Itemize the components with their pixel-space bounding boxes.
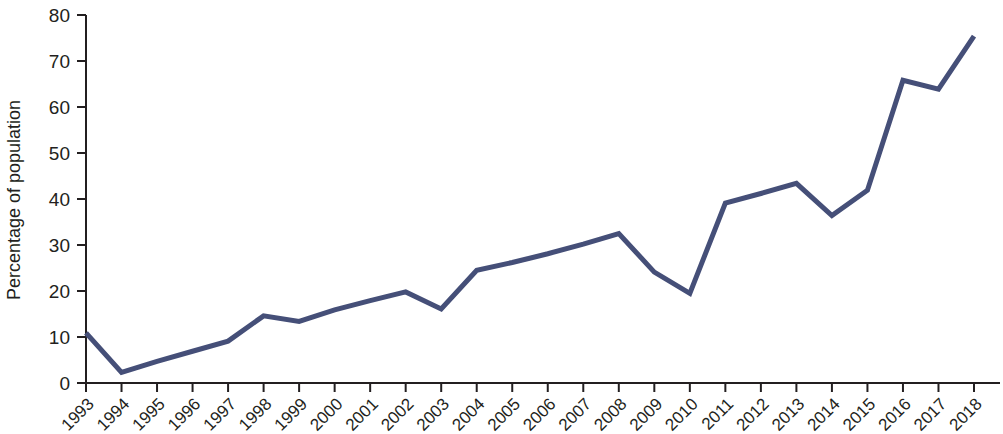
y-axis-label: Percentage of population	[4, 100, 24, 300]
y-axis-tick-label: 60	[49, 97, 70, 118]
y-axis-label-text: Percentage of population	[4, 100, 24, 300]
y-axis-tick-label: 20	[49, 281, 70, 302]
y-axis-tick-label: 80	[49, 5, 70, 26]
y-axis-tick-label: 50	[49, 143, 70, 164]
y-axis-tick-label: 0	[59, 373, 70, 394]
y-axis-tick-label: 30	[49, 235, 70, 256]
chart-background	[0, 0, 1003, 434]
y-axis-tick-label: 70	[49, 51, 70, 72]
line-chart: Percentage of population 010203040506070…	[0, 0, 1003, 434]
y-axis-tick-label: 10	[49, 327, 70, 348]
y-axis-tick-label: 40	[49, 189, 70, 210]
chart-canvas: Percentage of population 010203040506070…	[0, 0, 1003, 434]
